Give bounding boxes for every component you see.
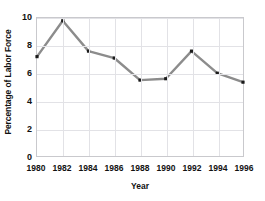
y-tick-label: 6 — [16, 69, 32, 78]
gridline-vertical — [63, 18, 64, 156]
x-tick-label: 1996 — [227, 162, 261, 174]
gridline-horizontal — [37, 130, 243, 131]
series-line — [37, 21, 243, 82]
gridline-vertical — [89, 18, 90, 156]
gridline-vertical — [167, 18, 168, 156]
gridline-horizontal — [37, 102, 243, 103]
y-tick-label: 2 — [16, 125, 32, 134]
gridline-vertical — [219, 18, 220, 156]
y-tick-label: 10 — [16, 13, 32, 22]
data-series-line — [37, 18, 243, 156]
gridline-vertical — [193, 18, 194, 156]
gridline-vertical — [141, 18, 142, 156]
gridline-horizontal — [37, 74, 243, 75]
y-tick-label: 0 — [16, 153, 32, 162]
y-tick-label: 8 — [16, 41, 32, 50]
gridline-horizontal — [37, 46, 243, 47]
plot-area — [36, 17, 244, 157]
data-point-marker — [35, 55, 38, 58]
y-tick-label: 4 — [16, 97, 32, 106]
data-point-marker — [241, 81, 244, 84]
gridline-horizontal — [37, 18, 243, 19]
x-axis-tick-labels: 198019821984198619881990199219941996 — [36, 162, 244, 174]
gridline-vertical — [115, 18, 116, 156]
x-axis-title: Year — [36, 181, 244, 191]
y-axis-title: Percentage of Labor Force — [2, 2, 14, 162]
line-chart: Percentage of Labor Force 0246810 198019… — [0, 0, 265, 201]
